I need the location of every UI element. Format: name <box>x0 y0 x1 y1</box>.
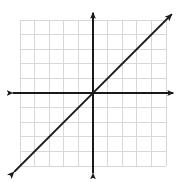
figure-background <box>0 0 183 182</box>
coordinate-plane-figure: y = x <box>0 0 183 182</box>
graph-canvas <box>0 0 183 182</box>
